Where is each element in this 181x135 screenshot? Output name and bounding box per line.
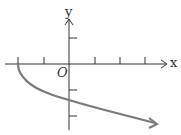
- y-ticks: [69, 38, 77, 116]
- graph: y x O: [0, 0, 181, 135]
- y-axis-label: y: [64, 4, 73, 19]
- x-axis-label: x: [170, 55, 178, 70]
- origin-label: O: [57, 65, 68, 80]
- curve: [18, 64, 155, 123]
- x-ticks: [18, 57, 145, 64]
